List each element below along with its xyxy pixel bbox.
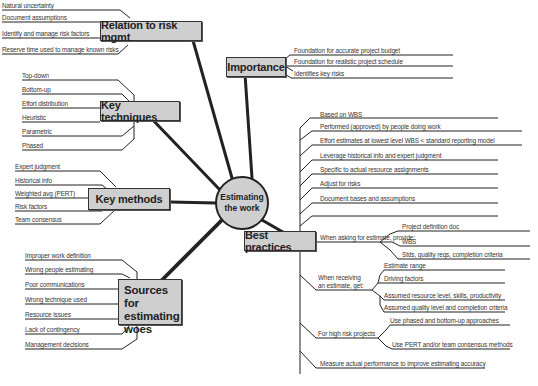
leaf-assumed-resource-level: Assumed resource level, skills, producti… xyxy=(384,292,501,300)
woes-label-line-3: woes xyxy=(124,323,180,336)
leaf-historical-info: Historical info xyxy=(15,177,52,185)
leaf-use-phased-bottom-up: Use phased and bottom-up approaches xyxy=(390,317,499,325)
leaf-top-down: Top-down xyxy=(22,72,49,80)
subbranch-when-receiving-line-2: an estimate, get: xyxy=(318,282,364,290)
leaf-foundation-budget: Foundation for accurate project budget xyxy=(294,47,400,55)
leaf-based-on-wbs: Based on WBS xyxy=(320,111,362,119)
leaf-assumed-quality-level: Assumed quality level and completion cri… xyxy=(384,304,507,312)
leaf-improper-work-definition: Improper work definition xyxy=(25,252,91,260)
leaf-natural-uncertainty: Natural uncertainty xyxy=(2,2,54,10)
leaf-wrong-technique-used: Wrong technique used xyxy=(25,296,87,304)
leaf-measure-actual-performance: Measure actual performance to improve es… xyxy=(320,360,486,368)
leaf-performed-approved: Performed (approved) by people doing wor… xyxy=(320,123,441,131)
leaf-bottom-up: Bottom-up xyxy=(22,86,51,94)
leaf-lack-of-contingency: Lack of contingency xyxy=(25,326,80,334)
center-node-estimating-the-work: Estimating the work xyxy=(215,176,269,230)
leaf-use-pert-team-consensus: Use PERT and/or team consensus methods xyxy=(392,341,513,349)
subbranch-high-risk-projects: For high risk projects xyxy=(318,330,375,338)
branch-sources-of-woes: Sources for estimating woes xyxy=(118,279,182,325)
leaf-estimate-range: Estimate range xyxy=(384,262,426,270)
leaf-resource-issues: Resource issues xyxy=(25,311,71,319)
leaf-adjust-for-risks: Adjust for risks xyxy=(320,180,360,188)
leaf-specific-resource-assignments: Specific to actual resource assignments xyxy=(320,166,429,174)
leaf-identifies-key-risks: Identifies key risks xyxy=(294,70,344,78)
center-line-1: Estimating xyxy=(220,192,263,203)
leaf-effort-estimates-lowest-level: Effort estimates at lowest level WBS < s… xyxy=(320,137,495,145)
subbranch-when-asking: When asking for estimate, provide: xyxy=(320,234,415,242)
leaf-team-consensus: Team consensus xyxy=(15,216,62,224)
leaf-driving-factors: Driving factors xyxy=(384,275,423,283)
leaf-phased: Phased xyxy=(22,142,43,150)
branch-importance: Importance xyxy=(226,57,286,77)
branch-relation-to-risk-mgmt: Relation to risk mgmt xyxy=(100,21,202,41)
leaf-identify-manage-risk-factors: Identify and manage risk factors xyxy=(2,30,89,38)
leaf-reserve-time: Reserve time used to manage known risks xyxy=(2,46,119,54)
leaf-poor-communications: Poor communications xyxy=(25,281,85,289)
leaf-document-assumptions: Document assumptions xyxy=(2,14,67,22)
leaf-effort-distribution: Effort distribution xyxy=(22,100,68,108)
leaf-weighted-avg-pert: Weighted avg (PERT) xyxy=(15,190,75,198)
woes-label-line-2: estimating xyxy=(124,310,180,323)
leaf-risk-factors: Risk factors xyxy=(15,203,47,211)
leaf-wrong-people-estimating: Wrong people estimating xyxy=(25,266,93,274)
leaf-foundation-schedule: Foundation for realistic project schedul… xyxy=(294,58,403,66)
branch-key-methods: Key methods xyxy=(88,188,170,210)
leaf-wbs: WBS xyxy=(402,238,416,246)
subbranch-when-receiving-line-1: When receiving xyxy=(318,274,361,282)
leaf-heuristic: Heuristic xyxy=(22,114,46,122)
leaf-leverage-historical-info: Leverage historical info and expert judg… xyxy=(320,152,441,160)
leaf-document-bases-assumptions: Document bases and assumptions xyxy=(320,195,415,203)
branch-best-practices: Best practices xyxy=(244,231,316,251)
woes-label-line-1: Sources for xyxy=(124,284,180,310)
center-line-2: the work xyxy=(220,203,263,214)
leaf-expert-judgment: Expert judgment xyxy=(15,163,60,171)
leaf-project-definition-doc: Project definition doc xyxy=(402,223,459,231)
leaf-management-decisions: Management decisions xyxy=(25,341,89,349)
leaf-stds-quality-reqs: Stds, quality reqs, completion criteria xyxy=(402,251,503,259)
branch-key-techniques: Key techniques xyxy=(100,101,180,121)
leaf-parametric: Parametric xyxy=(22,128,52,136)
